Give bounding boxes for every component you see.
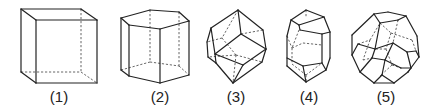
visible-edge — [179, 12, 189, 21]
visible-edge — [129, 76, 160, 83]
shape-elongated-dodecahedron — [287, 10, 330, 82]
label-shape-5: (5) — [377, 88, 395, 105]
visible-edge — [291, 10, 306, 20]
visible-edge — [241, 34, 266, 49]
visible-edge — [352, 55, 360, 72]
visible-edge — [207, 42, 208, 57]
shape-hexagonal-prism — [121, 10, 189, 83]
visible-edge — [382, 60, 385, 75]
shape-truncated-octahedron — [352, 12, 419, 83]
visible-edge — [287, 58, 303, 66]
visible-edge — [380, 20, 398, 23]
visible-edge — [121, 70, 129, 76]
visible-edge — [299, 25, 300, 30]
hidden-edge — [386, 33, 391, 49]
visible-edge — [322, 32, 330, 34]
visible-edge — [208, 57, 216, 63]
hidden-edge — [179, 66, 189, 75]
visible-edge — [352, 14, 374, 35]
label-shape-3: (3) — [227, 88, 245, 105]
visible-edge — [326, 58, 330, 70]
hidden-edge — [81, 72, 97, 83]
visible-edge — [215, 34, 241, 54]
hidden-edge — [287, 36, 292, 48]
visible-edge — [238, 10, 241, 34]
visible-edge — [21, 9, 36, 20]
visible-edge — [375, 23, 380, 49]
visible-edge — [211, 10, 238, 28]
visible-edge — [360, 72, 374, 83]
visible-edge — [121, 18, 129, 25]
visible-edge — [306, 70, 326, 82]
visible-edge — [299, 17, 324, 25]
hidden-edge — [303, 43, 322, 45]
visible-edge — [207, 28, 211, 42]
shape-rhombic-dodecahedron — [207, 10, 266, 83]
visible-edge — [360, 58, 372, 72]
label-shape-1: (1) — [50, 88, 68, 105]
shape-cube — [21, 9, 97, 83]
visible-edge — [372, 49, 375, 58]
visible-edge — [160, 21, 189, 29]
hidden-edge — [380, 23, 391, 33]
hidden-edge — [292, 30, 299, 48]
visible-edge — [322, 63, 326, 70]
visible-edge — [388, 12, 406, 16]
visible-edge — [358, 44, 375, 49]
visible-edge — [324, 17, 330, 32]
visible-edge — [81, 9, 97, 20]
hidden-edge — [150, 62, 179, 66]
visible-edge — [385, 60, 401, 68]
visible-edge — [233, 62, 262, 83]
visible-edge — [374, 14, 380, 23]
hidden-edge — [222, 10, 238, 38]
hidden-edge — [412, 40, 416, 51]
visible-edge — [215, 54, 243, 65]
visible-edge — [352, 44, 358, 55]
visible-edge — [300, 30, 322, 34]
visible-edge — [243, 49, 266, 65]
visible-edge — [393, 43, 407, 52]
visible-edge — [406, 16, 417, 36]
label-shape-2: (2) — [151, 88, 169, 105]
visible-edge — [263, 30, 266, 49]
visible-edge — [374, 12, 388, 14]
hidden-edge — [241, 30, 263, 34]
hidden-edge — [363, 40, 370, 60]
hidden-edge — [121, 62, 150, 70]
label-shape-4: (4) — [300, 88, 318, 105]
visible-edge — [372, 58, 385, 60]
visible-edge — [407, 51, 416, 52]
visible-edge — [121, 10, 150, 18]
hidden-edge — [358, 40, 370, 44]
hidden-edge — [207, 38, 222, 42]
visible-edge — [287, 20, 291, 36]
visible-edge — [216, 63, 233, 83]
hidden-edge — [393, 20, 398, 43]
hidden-edge — [292, 43, 303, 48]
visible-edge — [382, 75, 394, 83]
visible-edge — [150, 10, 179, 12]
visible-edge — [398, 16, 406, 20]
visible-edge — [211, 28, 215, 54]
visible-edge — [129, 25, 160, 29]
visible-edge — [160, 75, 189, 83]
visible-edge — [238, 10, 263, 30]
visible-edge — [394, 72, 408, 83]
visible-edge — [374, 75, 382, 83]
visible-edge — [306, 10, 324, 17]
visible-edge — [407, 52, 411, 68]
visible-edge — [291, 20, 299, 25]
visible-edge — [21, 72, 36, 83]
